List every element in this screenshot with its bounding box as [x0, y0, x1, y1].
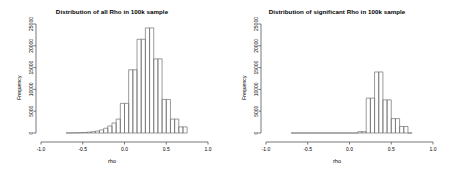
bar-left-14: [125, 103, 129, 133]
y-tick-label-right-0: 0: [253, 131, 259, 134]
bar-right-26: [400, 126, 404, 133]
bar-left-9: [104, 128, 108, 133]
bar-right-20: [375, 72, 379, 133]
histogram-panel-significant-rho: Distribution of significant Rho in 100k …: [225, 0, 449, 177]
bar-right-24: [391, 119, 395, 133]
y-tick-label-right-5: 25000: [253, 17, 259, 31]
x-tick-label-right-0: -1.0: [262, 146, 271, 152]
bar-left-20: [150, 28, 154, 133]
y-tick-label-left-5: 25000: [28, 17, 34, 31]
plot-area-right: 0500010000150002000025000-1.0-0.50.00.51…: [225, 0, 449, 177]
histogram-bars-left: [66, 28, 187, 133]
y-tick-label-right-1: 5000: [253, 105, 259, 116]
bar-left-10: [108, 126, 112, 133]
x-tick-label-right-2: 0.0: [346, 146, 353, 152]
bar-left-22: [158, 59, 162, 133]
x-tick-label-left-2: 0.0: [121, 146, 128, 152]
x-tick-label-right-1: -0.5: [303, 146, 312, 152]
bar-right-19: [370, 98, 374, 133]
bar-left-23: [162, 99, 166, 133]
bar-right-23: [387, 100, 391, 133]
x-tick-label-left-0: -1.0: [37, 146, 46, 152]
bar-left-17: [137, 39, 141, 133]
y-tick-label-left-0: 0: [28, 131, 34, 134]
histogram-panel-all-rho: Distribution of all Rho in 100k sample F…: [0, 0, 224, 177]
y-tick-label-right-2: 10000: [253, 82, 259, 96]
bar-left-27: [179, 127, 183, 133]
y-tick-label-left-1: 5000: [28, 105, 34, 116]
bar-left-13: [120, 103, 124, 133]
bar-left-12: [116, 119, 120, 133]
x-tick-label-right-4: 1.0: [430, 146, 437, 152]
bar-right-27: [404, 126, 408, 133]
bar-left-19: [145, 28, 149, 133]
y-tick-label-left-4: 20000: [28, 39, 34, 53]
bar-right-21: [379, 72, 383, 133]
bar-left-26: [175, 119, 179, 133]
y-tick-label-left-2: 10000: [28, 82, 34, 96]
x-tick-label-left-4: 1.0: [205, 146, 212, 152]
histogram-bars-right: [291, 72, 412, 133]
y-tick-label-right-3: 15000: [253, 60, 259, 74]
bar-right-22: [383, 100, 387, 133]
bar-left-18: [141, 39, 145, 133]
plot-area-left: 0500010000150002000025000-1.0-0.50.00.51…: [0, 0, 224, 177]
bar-left-28: [183, 127, 187, 133]
bar-left-16: [133, 70, 137, 133]
x-tick-label-left-3: 0.5: [163, 146, 170, 152]
y-tick-label-right-4: 20000: [253, 39, 259, 53]
bar-left-24: [166, 99, 170, 133]
bar-left-15: [129, 70, 133, 133]
figure-canvas: Distribution of all Rho in 100k sample F…: [0, 0, 449, 177]
bar-left-11: [112, 123, 116, 133]
bar-left-8: [99, 130, 103, 133]
bar-right-18: [366, 98, 370, 133]
bar-left-21: [154, 59, 158, 133]
y-tick-label-left-3: 15000: [28, 60, 34, 74]
x-tick-label-right-3: 0.5: [388, 146, 395, 152]
bar-left-25: [170, 119, 174, 133]
x-tick-label-left-1: -0.5: [78, 146, 87, 152]
bar-right-25: [395, 119, 399, 133]
